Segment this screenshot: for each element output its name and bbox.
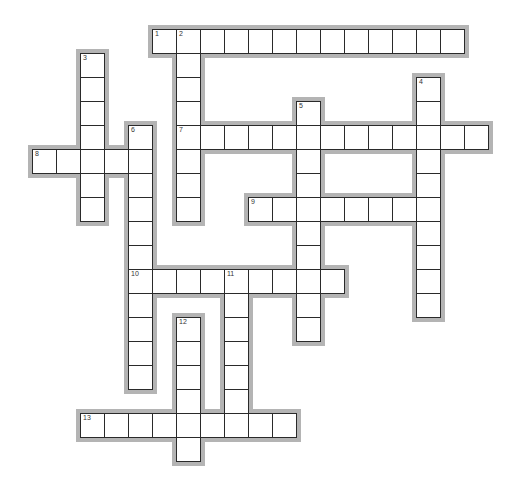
crossword-cell[interactable]: 7 — [176, 125, 201, 150]
crossword-cell[interactable] — [272, 413, 297, 438]
crossword-cell[interactable] — [392, 125, 417, 150]
crossword-cell[interactable] — [296, 29, 321, 54]
crossword-cell[interactable] — [392, 29, 417, 54]
crossword-cell[interactable] — [80, 77, 105, 102]
crossword-cell[interactable]: 4 — [416, 77, 441, 102]
crossword-cell[interactable] — [176, 101, 201, 126]
crossword-cell[interactable] — [176, 341, 201, 366]
crossword-cell[interactable] — [176, 53, 201, 78]
crossword-cell[interactable] — [320, 269, 345, 294]
crossword-cell[interactable] — [176, 437, 201, 462]
crossword-cell[interactable] — [416, 269, 441, 294]
crossword-cell[interactable] — [224, 293, 249, 318]
crossword-cell[interactable] — [224, 365, 249, 390]
crossword-cell[interactable] — [296, 293, 321, 318]
crossword-cell[interactable] — [128, 341, 153, 366]
crossword-cell[interactable] — [368, 197, 393, 222]
crossword-cell[interactable] — [464, 125, 489, 150]
crossword-cell[interactable]: 11 — [224, 269, 249, 294]
crossword-cell[interactable] — [176, 77, 201, 102]
crossword-cell[interactable] — [296, 317, 321, 342]
crossword-cell[interactable] — [128, 317, 153, 342]
crossword-cell[interactable] — [176, 269, 201, 294]
crossword-cell[interactable] — [128, 293, 153, 318]
crossword-cell[interactable] — [416, 293, 441, 318]
crossword-cell[interactable] — [248, 29, 273, 54]
crossword-cell[interactable] — [416, 173, 441, 198]
crossword-cell[interactable] — [224, 125, 249, 150]
crossword-cell[interactable] — [200, 269, 225, 294]
crossword-cell[interactable] — [296, 197, 321, 222]
crossword-cell[interactable] — [176, 173, 201, 198]
crossword-cell[interactable] — [344, 29, 369, 54]
crossword-cell[interactable] — [200, 413, 225, 438]
crossword-cell[interactable] — [128, 245, 153, 270]
crossword-cell[interactable] — [296, 269, 321, 294]
crossword-cell[interactable] — [368, 29, 393, 54]
crossword-cell[interactable] — [80, 125, 105, 150]
crossword-cell[interactable] — [224, 389, 249, 414]
crossword-cell[interactable]: 2 — [176, 29, 201, 54]
crossword-cell[interactable] — [440, 29, 465, 54]
crossword-cell[interactable] — [128, 149, 153, 174]
crossword-cell[interactable] — [128, 413, 153, 438]
crossword-cell[interactable]: 8 — [32, 149, 57, 174]
crossword-cell[interactable] — [296, 245, 321, 270]
crossword-cell[interactable]: 5 — [296, 101, 321, 126]
crossword-cell[interactable] — [368, 125, 393, 150]
crossword-cell[interactable] — [248, 413, 273, 438]
crossword-cell[interactable] — [224, 29, 249, 54]
crossword-cell[interactable] — [440, 125, 465, 150]
crossword-cell[interactable] — [296, 125, 321, 150]
crossword-cell[interactable] — [416, 149, 441, 174]
crossword-cell[interactable] — [344, 125, 369, 150]
crossword-cell[interactable] — [248, 269, 273, 294]
crossword-cell[interactable] — [56, 149, 81, 174]
crossword-cell[interactable]: 3 — [80, 53, 105, 78]
crossword-cell[interactable] — [320, 125, 345, 150]
crossword-cell[interactable] — [272, 269, 297, 294]
crossword-cell[interactable] — [200, 29, 225, 54]
crossword-cell[interactable] — [416, 29, 441, 54]
crossword-cell[interactable]: 1 — [152, 29, 177, 54]
crossword-cell[interactable] — [128, 221, 153, 246]
crossword-cell[interactable]: 13 — [80, 413, 105, 438]
crossword-cell[interactable] — [152, 413, 177, 438]
crossword-cell[interactable] — [416, 197, 441, 222]
crossword-cell[interactable] — [224, 341, 249, 366]
crossword-cell[interactable] — [296, 173, 321, 198]
crossword-cell[interactable] — [272, 29, 297, 54]
crossword-cell[interactable] — [80, 197, 105, 222]
crossword-cell[interactable] — [80, 101, 105, 126]
crossword-cell[interactable]: 12 — [176, 317, 201, 342]
crossword-cell[interactable] — [320, 29, 345, 54]
crossword-cell[interactable] — [128, 173, 153, 198]
crossword-cell[interactable] — [200, 125, 225, 150]
crossword-cell[interactable] — [344, 197, 369, 222]
crossword-cell[interactable] — [272, 197, 297, 222]
crossword-cell[interactable] — [416, 125, 441, 150]
crossword-cell[interactable] — [416, 101, 441, 126]
crossword-cell[interactable] — [248, 125, 273, 150]
crossword-cell[interactable] — [176, 413, 201, 438]
crossword-cell[interactable] — [416, 221, 441, 246]
crossword-cell[interactable] — [320, 197, 345, 222]
crossword-cell[interactable] — [80, 173, 105, 198]
crossword-cell[interactable] — [80, 149, 105, 174]
crossword-cell[interactable] — [176, 365, 201, 390]
crossword-cell[interactable] — [128, 365, 153, 390]
crossword-cell[interactable]: 6 — [128, 125, 153, 150]
crossword-cell[interactable] — [176, 389, 201, 414]
crossword-cell[interactable] — [224, 317, 249, 342]
crossword-cell[interactable] — [416, 245, 441, 270]
crossword-cell[interactable] — [176, 149, 201, 174]
crossword-cell[interactable] — [224, 413, 249, 438]
crossword-cell[interactable] — [152, 269, 177, 294]
crossword-cell[interactable] — [392, 197, 417, 222]
crossword-cell[interactable] — [176, 197, 201, 222]
crossword-cell[interactable] — [272, 125, 297, 150]
crossword-cell[interactable]: 9 — [248, 197, 273, 222]
crossword-cell[interactable] — [104, 149, 129, 174]
crossword-cell[interactable] — [128, 197, 153, 222]
crossword-cell[interactable] — [296, 149, 321, 174]
